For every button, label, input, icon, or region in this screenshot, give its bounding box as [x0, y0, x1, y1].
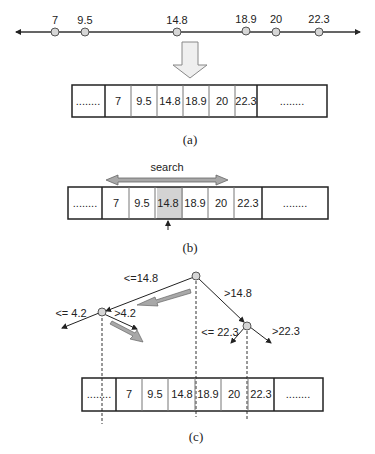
- diagram-canvas: 7 9.5 14.8 18.9 20 22.3: [0, 0, 375, 454]
- number-line: 7 9.5 14.8 18.9 20 22.3: [16, 13, 360, 36]
- array-cell: 18.9: [185, 95, 206, 107]
- array-cell: 20: [216, 95, 228, 107]
- array-cell: ........: [73, 197, 97, 209]
- array-cell: 20: [215, 197, 227, 209]
- number-line-point: 9.5: [77, 14, 92, 36]
- array-cell: 22.3: [235, 95, 256, 107]
- array-cell: ........: [76, 95, 100, 107]
- sorted-array-a: ........ 7 9.5 14.8 18.9 20 22.3 .......…: [72, 85, 327, 117]
- svg-text:22.3: 22.3: [308, 13, 329, 25]
- array-cell: 7: [126, 388, 132, 400]
- caption-c: (c): [189, 429, 203, 444]
- tree-node-root: [192, 272, 200, 280]
- array-cell: 9.5: [134, 197, 149, 209]
- svg-text:20: 20: [270, 13, 282, 25]
- edge-label: <=14.8: [124, 272, 158, 284]
- tree-node-right: [243, 322, 251, 330]
- search-tree: <=14.8 >14.8 <= 4.2 >4.2 <= 22.3 >22.3: [55, 272, 300, 424]
- tree-node-left: [98, 308, 106, 316]
- array-cell: ........: [87, 388, 111, 400]
- edge-label: >22.3: [272, 325, 300, 337]
- array-cell: 7: [113, 197, 119, 209]
- svg-text:14.8: 14.8: [166, 14, 187, 26]
- number-line-point: 14.8: [166, 14, 187, 36]
- array-cell: 22.3: [237, 197, 258, 209]
- sorted-array-c: ........ 7 9.5 14.8 18.9 20 22.3 .......…: [82, 378, 323, 411]
- number-line-point: 7: [51, 14, 59, 36]
- edge-label: <= 22.3: [201, 326, 238, 338]
- array-cell: 9.5: [147, 388, 162, 400]
- array-cell: 22.3: [250, 388, 271, 400]
- sorted-array-b: ........ 7 9.5 14.8 18.9 20 22.3 .......…: [68, 187, 328, 219]
- caption-b: (b): [182, 240, 197, 255]
- svg-text:18.9: 18.9: [235, 13, 256, 25]
- edge-label: >4.2: [114, 307, 136, 319]
- svg-text:7: 7: [52, 14, 58, 26]
- array-cell: 7: [115, 95, 121, 107]
- down-arrow-icon: [173, 42, 207, 78]
- array-cell: 14.8: [159, 95, 180, 107]
- svg-text:9.5: 9.5: [77, 14, 92, 26]
- number-line-point: 20: [270, 13, 282, 36]
- array-cell: 20: [228, 388, 240, 400]
- edge-label: >14.8: [224, 287, 252, 299]
- array-cell: ........: [286, 388, 310, 400]
- traverse-arrow-icon: [137, 289, 191, 306]
- edge-label: <= 4.2: [55, 307, 86, 319]
- double-arrow-icon: [106, 175, 228, 185]
- search-label: search: [150, 161, 183, 173]
- caption-a: (a): [183, 132, 197, 147]
- array-cell: 14.8: [171, 388, 192, 400]
- array-cell: 9.5: [136, 95, 151, 107]
- array-cell: ........: [283, 197, 307, 209]
- number-line-point: 22.3: [308, 13, 329, 36]
- array-cell: ........: [280, 95, 304, 107]
- array-cell: 18.9: [197, 388, 218, 400]
- array-cell: 18.9: [184, 197, 205, 209]
- array-cell: 14.8: [157, 197, 178, 209]
